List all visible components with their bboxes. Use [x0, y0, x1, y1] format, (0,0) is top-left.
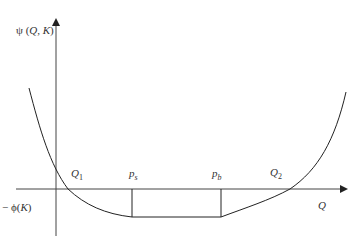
cost-curve-left — [29, 88, 132, 217]
y-axis-label: ψ (Q, K) — [16, 24, 54, 37]
ps-label: ps — [128, 167, 138, 182]
neg-phi-label: − ϕ(K) — [2, 201, 32, 214]
q1-label: Q1 — [71, 167, 83, 182]
x-axis-label: Q — [318, 199, 326, 211]
pb-label: pb — [211, 167, 222, 182]
cost-curve-right — [221, 92, 346, 217]
q2-label: Q2 — [270, 166, 282, 181]
diagram-canvas: ψ (Q, K) − ϕ(K) Q Q1 ps pb Q2 — [0, 0, 360, 245]
